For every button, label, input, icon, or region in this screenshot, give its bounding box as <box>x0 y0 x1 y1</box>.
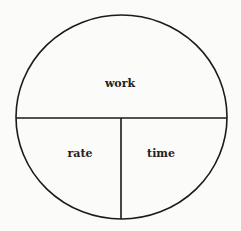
label-work: work <box>104 77 136 90</box>
label-time: time <box>147 147 175 160</box>
work-rate-time-diagram: work rate time <box>0 0 241 231</box>
label-rate: rate <box>67 147 92 160</box>
